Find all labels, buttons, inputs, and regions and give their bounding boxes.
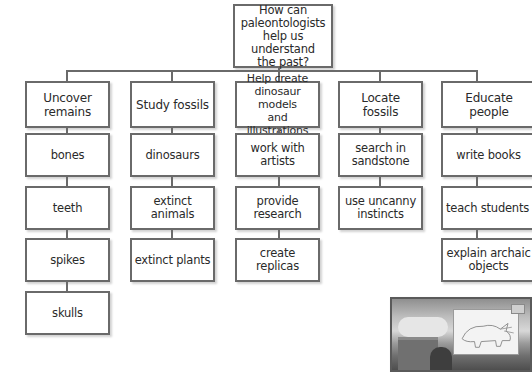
connector [66,230,68,238]
heading-educate-people: Educate people [441,81,532,128]
item-extinct-animals: extinct animals [130,186,215,230]
item-use-uncanny-instincts: use uncanny instincts [338,186,423,230]
item-skulls: skulls [25,291,110,335]
logo-icon [511,304,525,314]
illustration-photo [390,297,532,372]
artist-figure [430,347,452,372]
connector [476,230,478,238]
root-question-box: How can paleontologists help us understa… [233,4,333,68]
heading-locate-fossils: Locate fossils [338,81,423,128]
triceratops-sketch-icon [453,309,519,355]
connector [171,230,173,238]
connector [278,177,280,186]
heading-uncover-remains: Uncover remains [25,81,110,128]
connector [66,177,68,186]
item-spikes: spikes [25,238,110,282]
item-create-replicas: create replicas [235,238,320,282]
heading-help-create-models: Help create dinosaur models and illustra… [235,81,320,128]
connector [476,177,478,186]
item-extinct-plants: extinct plants [130,238,215,282]
item-provide-research: provide research [235,186,320,230]
item-search-in-sandstone: search in sandstone [338,133,423,177]
cloud-shape [398,317,448,337]
connector [171,70,173,81]
connector [171,177,173,186]
connector [379,70,381,81]
item-dinosaurs: dinosaurs [130,133,215,177]
connector [379,177,381,186]
item-explain-archaic-objects: explain archaic objects [441,238,532,282]
connector [66,70,68,81]
item-work-with-artists: work with artists [235,133,320,177]
concept-diagram: How can paleontologists help us understa… [0,0,532,372]
item-teach-students: teach students [441,186,532,230]
item-write-books: write books [441,133,532,177]
connector [476,70,478,81]
item-bones: bones [25,133,110,177]
connector [278,230,280,238]
connector [66,282,68,291]
heading-study-fossils: Study fossils [130,81,215,128]
item-teeth: teeth [25,186,110,230]
